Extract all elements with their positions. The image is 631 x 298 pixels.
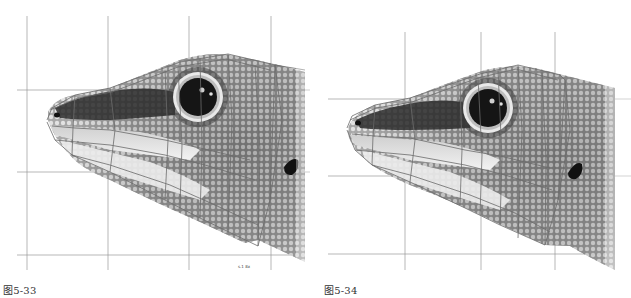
figure-caption: 图5-33 <box>3 282 36 297</box>
figure-5-34 <box>320 0 631 270</box>
scale-label: s.1 8x <box>238 264 250 269</box>
figure-caption: 图5-34 <box>324 282 357 297</box>
eye <box>458 78 518 138</box>
figure-5-33: s.1 8x <box>0 0 310 270</box>
lizard-head-illustration <box>320 0 631 270</box>
lizard-head-illustration <box>0 0 310 270</box>
eye <box>168 67 228 127</box>
